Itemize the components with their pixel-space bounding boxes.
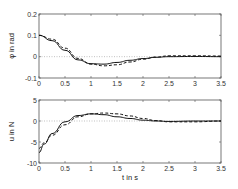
x-tick-label: 3.5 <box>216 80 226 87</box>
x-tick-label: 1 <box>89 80 93 87</box>
axes-frame <box>39 14 221 78</box>
y-tick-label: 0 <box>33 118 37 125</box>
y-tick-label: 0.2 <box>27 11 37 18</box>
x-tick-label: 1.5 <box>112 165 122 172</box>
x-tick-label: 0 <box>37 80 41 87</box>
x-tick-label: 0 <box>37 165 41 172</box>
x-tick-label: 1.5 <box>112 80 122 87</box>
x-tick-label: 0.5 <box>60 165 70 172</box>
y-tick-label: 0.1 <box>27 32 37 39</box>
x-tick-label: 3 <box>193 80 197 87</box>
x-axis-label: t in s <box>122 173 138 182</box>
x-tick-label: 2 <box>141 165 145 172</box>
y-axis-label: u in N <box>7 122 16 142</box>
subplot-2: 00.511.522.533.5-10-505u in Nt in s <box>7 97 226 183</box>
y-axis-label: φ in rad <box>7 33 16 59</box>
x-tick-label: 1 <box>89 165 93 172</box>
y-tick-label: 5 <box>33 97 37 104</box>
x-tick-label: 2.5 <box>164 165 174 172</box>
axes-frame <box>39 100 221 163</box>
subplot-1: 00.511.522.533.5-0.100.10.2φ in rad <box>7 11 226 88</box>
y-tick-label: -10 <box>27 160 37 167</box>
y-tick-label: -5 <box>31 139 37 146</box>
figure: 00.511.522.533.5-0.100.10.2φ in rad00.51… <box>0 0 238 189</box>
x-tick-label: 0.5 <box>60 80 70 87</box>
x-tick-label: 2.5 <box>164 80 174 87</box>
x-tick-label: 3.5 <box>216 165 226 172</box>
x-tick-label: 2 <box>141 80 145 87</box>
y-tick-label: 0 <box>33 53 37 60</box>
x-tick-label: 3 <box>193 165 197 172</box>
y-tick-label: -0.1 <box>25 75 37 82</box>
